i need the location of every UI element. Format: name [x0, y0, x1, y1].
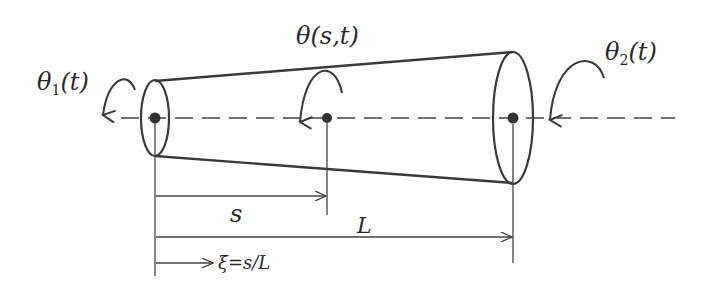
- theta-mid-label: θ(s,t): [296, 24, 359, 48]
- theta2-symbol: θ: [605, 38, 619, 66]
- s-label: s: [230, 202, 242, 226]
- diagram-canvas: θ1(t) θ(s,t) θ2(t) s L ξ=s/L: [0, 0, 707, 294]
- xi-text: ξ=s/L: [218, 252, 270, 273]
- theta1-rotation-arrow: [103, 79, 135, 115]
- theta1-label: θ1(t): [37, 70, 89, 97]
- theta2-rotation-arrow: [550, 61, 604, 120]
- left-node: [150, 113, 161, 124]
- theta1-symbol: θ: [37, 68, 51, 96]
- right-node: [508, 113, 519, 124]
- shaft-top-edge: [155, 52, 513, 81]
- mid-node: [322, 113, 332, 123]
- theta2-label: θ2(t): [605, 40, 657, 67]
- theta-mid-rotation-arrow: [300, 71, 342, 122]
- theta1-arg: (t): [60, 68, 88, 96]
- theta2-arg: (t): [628, 38, 656, 66]
- L-label: L: [357, 215, 372, 237]
- shaft-bottom-edge: [155, 156, 513, 183]
- xi-label: ξ=s/L: [218, 254, 270, 272]
